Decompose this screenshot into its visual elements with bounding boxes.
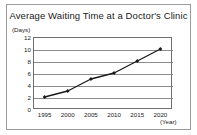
line-series-svg xyxy=(33,37,172,109)
chart-figure: Average Waiting Time at a Doctor's Clini… xyxy=(0,0,197,135)
x-axis-tick-labels: 199520002005201020152020 xyxy=(33,111,172,121)
y-tick-label: 6 xyxy=(13,70,31,77)
x-axis-unit-label: (Year) xyxy=(160,118,177,126)
y-axis-tick-labels: 024681012 xyxy=(11,37,31,109)
plot-wrapper xyxy=(33,37,172,109)
data-point-marker xyxy=(43,95,47,99)
y-tick-label: 8 xyxy=(13,58,31,65)
chart-title: Average Waiting Time at a Doctor's Clini… xyxy=(0,10,197,21)
y-tick-label: 10 xyxy=(13,46,31,53)
y-tick-label: 12 xyxy=(13,34,31,41)
x-tick-label: 2020 xyxy=(145,111,175,118)
y-tick-label: 2 xyxy=(13,94,31,101)
series-line xyxy=(45,49,161,97)
y-tick-label: 0 xyxy=(13,106,31,113)
y-tick-label: 4 xyxy=(13,82,31,89)
